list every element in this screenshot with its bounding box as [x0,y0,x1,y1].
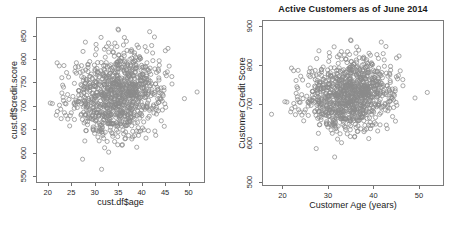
x-tick-mark [95,183,96,186]
y-tick-mark [259,182,262,183]
y-tick-label: 800 [19,53,28,66]
x-tick-mark [142,183,143,186]
y-tick-mark [33,176,36,177]
x-tick-label: 30 [324,191,332,200]
x-tick-mark [71,183,72,186]
x-tick-label: 40 [369,191,377,200]
y-tick-mark [33,59,36,60]
y-tick-mark [33,153,36,154]
right-plot-area [262,20,444,186]
y-tick-mark [33,106,36,107]
left-y-axis-title: cust.df$credit.score [9,17,19,183]
right-points-layer [263,21,443,185]
y-tick-mark [259,65,262,66]
y-tick-label: 700 [19,100,28,113]
x-tick-label: 40 [137,188,145,197]
x-tick-mark [48,183,49,186]
x-tick-mark [373,186,374,189]
right-scatter-panel: Active Customers as of June 2014 2030405… [227,0,454,225]
y-tick-label: 850 [19,29,28,42]
x-tick-mark [165,183,166,186]
x-tick-label: 20 [44,188,52,197]
y-tick-mark [259,104,262,105]
x-tick-label: 50 [415,191,423,200]
x-tick-label: 45 [161,188,169,197]
y-tick-label: 600 [19,146,28,159]
y-tick-label: 750 [19,76,28,89]
x-tick-mark [118,183,119,186]
y-tick-mark [259,143,262,144]
right-y-axis-title: Customer Credit Score [237,20,247,186]
left-points-layer [37,18,204,182]
x-tick-label: 30 [91,188,99,197]
x-tick-label: 20 [278,191,286,200]
x-tick-mark [419,186,420,189]
y-tick-label: 550 [19,170,28,183]
y-tick-mark [33,36,36,37]
x-tick-label: 35 [114,188,122,197]
y-tick-mark [259,26,262,27]
scatterplot-figure: 20253035404550 550600650700750800850 cus… [0,0,454,225]
x-tick-mark [328,186,329,189]
right-plot-title: Active Customers as of June 2014 [262,4,444,14]
left-x-axis-title: cust.df$age [36,197,205,207]
x-tick-mark [189,183,190,186]
right-x-axis-title: Customer Age (years) [262,200,444,210]
y-tick-mark [33,129,36,130]
x-tick-label: 25 [67,188,75,197]
x-tick-label: 50 [184,188,192,197]
x-tick-mark [282,186,283,189]
y-tick-mark [33,82,36,83]
left-plot-area [36,17,205,183]
left-scatter-panel: 20253035404550 550600650700750800850 cus… [0,0,227,225]
y-tick-label: 650 [19,123,28,136]
